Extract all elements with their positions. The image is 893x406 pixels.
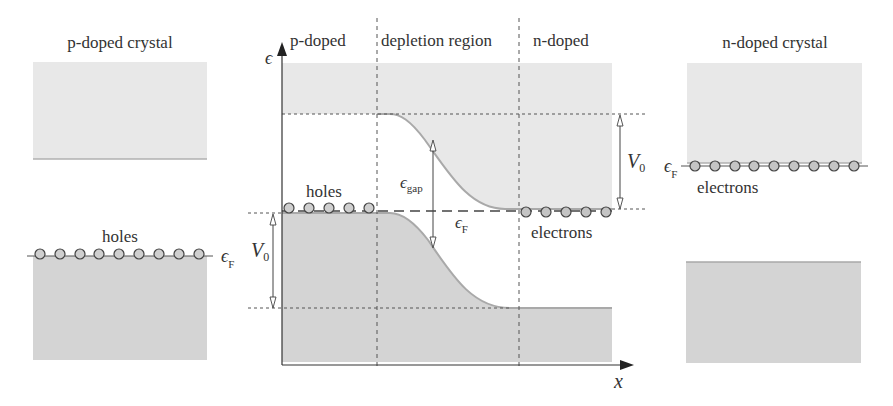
- v0-right-arrow-down-icon: [617, 198, 623, 209]
- p-crystal-valence-band: [33, 256, 207, 360]
- p-crystal-conduction-band: [33, 62, 207, 159]
- v0-left-label: V0: [251, 239, 269, 264]
- x-axis-arrow-icon: [620, 360, 634, 370]
- n-crystal-fermi-label: ϵF: [664, 156, 677, 180]
- n-crystal-conduction-band: [687, 63, 862, 163]
- p-doped-crystal: p-doped crystal holes ϵF: [27, 33, 234, 360]
- v0-left-arrow-up-icon: [270, 214, 276, 225]
- junction-holes: [284, 203, 374, 213]
- n-crystal-title: n-doped crystal: [722, 33, 828, 52]
- p-crystal-fermi-label: ϵF: [221, 246, 234, 270]
- pn-junction: ϵ x p-doped depletion region n-doped hol…: [248, 18, 648, 392]
- y-axis-label: ϵ: [265, 48, 273, 68]
- pn-junction-diagram: p-doped crystal holes ϵF: [0, 0, 893, 406]
- region-label-depletion: depletion region: [381, 31, 492, 50]
- p-crystal-title: p-doped crystal: [67, 33, 173, 52]
- p-crystal-holes-label: holes: [102, 227, 138, 246]
- region-label-p: p-doped: [290, 31, 346, 50]
- v0-left-arrow-down-icon: [270, 297, 276, 308]
- n-crystal-electrons-label: electrons: [697, 178, 758, 197]
- p-crystal-holes: [35, 249, 204, 259]
- n-crystal-valence-band: [686, 262, 861, 363]
- junction-fermi-label: ϵF: [455, 213, 468, 235]
- v0-right-label: V0: [627, 150, 645, 175]
- v0-right-arrow-up-icon: [617, 115, 623, 126]
- gap-label: ϵgap: [400, 173, 423, 194]
- region-label-n: n-doped: [533, 31, 589, 50]
- x-axis-label: x: [613, 370, 623, 392]
- junction-electrons-label: electrons: [531, 223, 592, 242]
- n-crystal-electrons: [690, 161, 859, 171]
- n-doped-crystal: n-doped crystal electrons ϵF: [664, 33, 868, 363]
- junction-holes-label: holes: [306, 182, 342, 201]
- y-axis-arrow-icon: [277, 42, 287, 56]
